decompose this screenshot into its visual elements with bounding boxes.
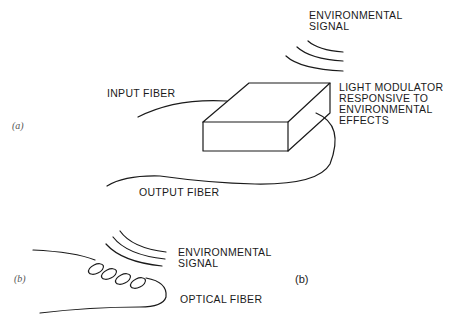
light-modulator-box xyxy=(203,83,330,151)
diagram-drawing xyxy=(0,0,454,320)
input-fiber-label: INPUT FIBER xyxy=(107,88,175,99)
environmental-signal-waves-a xyxy=(286,41,343,71)
optical-fiber-label: OPTICAL FIBER xyxy=(180,294,262,305)
output-fiber-line xyxy=(107,113,335,186)
panel-label-b-bold: (b) xyxy=(295,273,308,285)
coiled-optical-fiber xyxy=(33,250,166,313)
env-signal-label-a-line2: SIGNAL xyxy=(309,21,349,32)
environmental-signal-waves-b xyxy=(106,231,166,266)
panel-label-a: (a) xyxy=(12,120,24,131)
light-modulator-label-line4: EFFECTS xyxy=(339,115,389,126)
panel-label-b: (b) xyxy=(14,273,26,284)
input-fiber-line xyxy=(138,101,227,117)
figure: ENVIRONMENTAL SIGNAL INPUT FIBER LIGHT M… xyxy=(0,0,454,320)
output-fiber-label: OUTPUT FIBER xyxy=(139,187,219,198)
env-signal-label-b-line2: SIGNAL xyxy=(178,258,218,269)
